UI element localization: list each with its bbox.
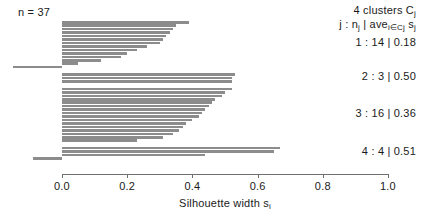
- legend-subtitle-mid: | ave: [360, 18, 388, 30]
- silhouette-bar: [62, 77, 232, 80]
- silhouette-bar: [62, 45, 147, 48]
- silhouette-bar: [62, 56, 121, 59]
- silhouette-bar: [13, 66, 62, 69]
- x-axis-tick: [127, 174, 128, 178]
- silhouette-bar: [62, 154, 205, 157]
- silhouette-bar: [62, 108, 205, 111]
- x-axis-tick: [323, 174, 324, 178]
- x-axis-line: [62, 174, 388, 175]
- x-axis-tick-label: 0.6: [250, 180, 266, 192]
- legend-subtitle: j : nj | avei∈Cj sj: [266, 18, 416, 32]
- legend-subtitle-sub1: j: [358, 23, 360, 32]
- x-axis-tick-label: 0.0: [54, 180, 70, 192]
- silhouette-bar: [62, 62, 78, 65]
- silhouette-bar: [62, 52, 127, 55]
- legend-header: 4 clusters Cj j : nj | avei∈Cj sj: [266, 4, 416, 32]
- silhouette-bar: [62, 112, 202, 115]
- legend-title-text: 4 clusters C: [354, 4, 414, 16]
- x-axis-tick-label: 0.8: [315, 180, 331, 192]
- x-axis-tick: [258, 174, 259, 178]
- silhouette-bar: [62, 101, 212, 104]
- silhouette-bar: [62, 98, 215, 101]
- silhouette-bar: [62, 150, 274, 153]
- legend-subtitle-sub3: j: [414, 23, 416, 32]
- silhouette-bar: [62, 38, 163, 41]
- legend-subtitle-post: s: [405, 18, 414, 30]
- legend-subtitle-pre: j : n: [339, 18, 358, 30]
- silhouette-bar: [62, 49, 137, 52]
- silhouette-bar: [62, 122, 186, 125]
- silhouette-bar: [62, 42, 160, 45]
- x-axis-tick-label: 1.0: [380, 180, 396, 192]
- x-axis-tick: [388, 174, 389, 178]
- plot-area: [0, 18, 400, 170]
- silhouette-bar: [62, 59, 101, 62]
- silhouette-bar: [62, 105, 209, 108]
- sample-size-label: n = 37: [18, 6, 50, 18]
- silhouette-bar: [62, 95, 222, 98]
- x-axis-tick-label: 0.4: [184, 180, 200, 192]
- x-axis-label-subscript: i: [269, 202, 271, 211]
- silhouette-bar: [62, 126, 183, 129]
- legend-title: 4 clusters Cj: [266, 4, 416, 18]
- x-axis-label: Silhouette width si: [179, 197, 271, 209]
- silhouette-plot-figure: n = 37 0.00.20.40.60.81.0 Silhouette wid…: [0, 0, 424, 216]
- silhouette-bar: [62, 31, 170, 34]
- silhouette-bar: [62, 35, 166, 38]
- silhouette-bar: [62, 136, 163, 139]
- legend-subtitle-sub2: i∈Cj: [388, 23, 405, 32]
- silhouette-bar: [62, 147, 280, 150]
- silhouette-bar: [62, 80, 232, 83]
- silhouette-bar: [62, 88, 232, 91]
- silhouette-bar: [62, 115, 199, 118]
- silhouette-bar: [33, 157, 62, 160]
- silhouette-bar: [62, 21, 189, 24]
- silhouette-bar: [62, 139, 137, 142]
- silhouette-bar: [62, 119, 192, 122]
- silhouette-bar: [62, 73, 235, 76]
- x-axis-label-text: Silhouette width s: [179, 197, 269, 209]
- cluster-summary-4: 4 : 4 | 0.51: [362, 145, 416, 157]
- silhouette-bar: [62, 133, 173, 136]
- silhouette-bar: [62, 24, 176, 27]
- x-axis-tick: [62, 174, 63, 178]
- silhouette-bar: [62, 91, 225, 94]
- silhouette-bar: [62, 28, 173, 31]
- silhouette-bar: [62, 129, 179, 132]
- cluster-summary-3: 3 : 16 | 0.36: [355, 107, 416, 119]
- legend-title-subscript: j: [414, 9, 416, 18]
- x-axis-tick: [192, 174, 193, 178]
- cluster-summary-2: 2 : 3 | 0.50: [362, 70, 416, 82]
- cluster-summary-1: 1 : 14 | 0.18: [355, 36, 416, 48]
- x-axis-tick-label: 0.2: [119, 180, 135, 192]
